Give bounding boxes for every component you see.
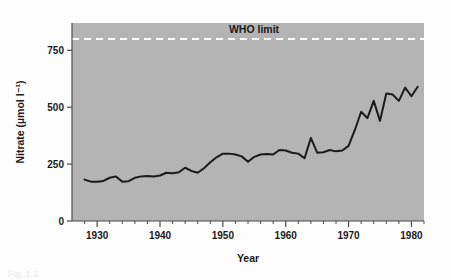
x-tick-label: 1950 <box>212 230 235 241</box>
y-axis-tick-labels: 0250500750 <box>47 45 64 227</box>
y-tick-label: 750 <box>47 45 64 56</box>
x-axis-tick-labels: 193019401950196019701980 <box>86 230 423 241</box>
x-axis-ticks <box>85 221 424 227</box>
x-tick-label: 1980 <box>400 230 423 241</box>
figure-container: 0250500750 193019401950196019701980 WHO … <box>0 0 451 280</box>
x-axis-title: Year <box>237 252 259 264</box>
y-tick-label: 0 <box>58 216 64 227</box>
x-tick-label: 1940 <box>149 230 172 241</box>
x-tick-label: 1960 <box>275 230 298 241</box>
y-tick-label: 500 <box>47 102 64 113</box>
nitrate-time-series-chart: 0250500750 193019401950196019701980 WHO … <box>0 0 451 280</box>
x-tick-label: 1970 <box>337 230 360 241</box>
y-tick-label: 250 <box>47 159 64 170</box>
x-tick-label: 1930 <box>86 230 109 241</box>
figure-caption-fragment: Fig. 1.1 <box>8 268 128 280</box>
plot-area-background <box>72 23 424 221</box>
y-axis-ticks <box>67 50 72 221</box>
y-axis-title: Nitrate (µmol l⁻¹) <box>14 80 26 163</box>
who-limit-label: WHO limit <box>229 23 280 35</box>
